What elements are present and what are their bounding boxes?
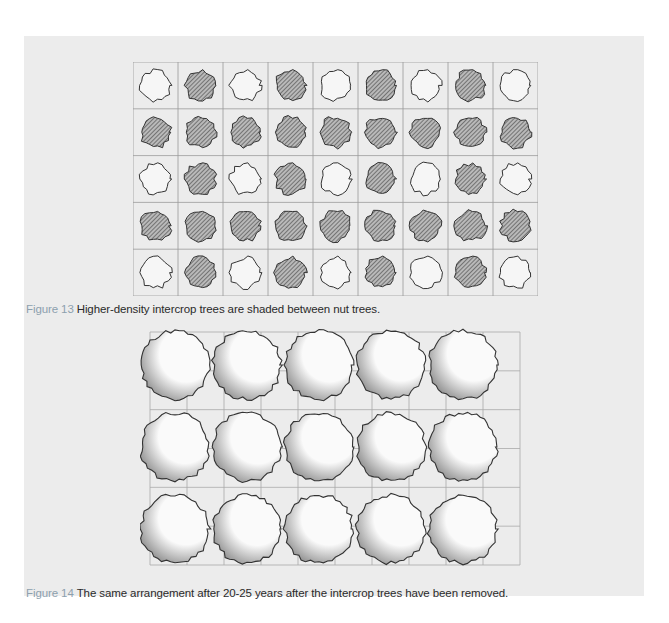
nut-tree-icon (410, 256, 443, 289)
intercrop-tree-icon (454, 210, 488, 241)
intercrop-tree-icon (365, 256, 396, 287)
nut-tree-icon (321, 256, 352, 289)
mature-nut-tree-icon (140, 494, 211, 563)
mature-nut-tree-icon (283, 496, 353, 563)
nut-tree-icon (411, 162, 441, 196)
nut-tree-icon (500, 163, 532, 195)
intercrop-tree-icon (365, 210, 396, 241)
figure-14-caption: Figure 14The same arrangement after 20-2… (26, 587, 508, 599)
intercrop-tree-icon (141, 117, 171, 148)
figure-14-label: Figure 14 (26, 587, 74, 599)
mature-nut-tree-icon (140, 413, 209, 482)
nut-tree-icon (500, 70, 531, 102)
intercrop-tree-icon (500, 209, 532, 242)
intercrop-tree-icon (409, 118, 441, 148)
mature-nut-tree-icon (212, 412, 282, 483)
nut-tree-icon (139, 163, 172, 195)
figure-14-caption-text: The same arrangement after 20-25 years a… (77, 587, 509, 599)
figure-13-label: Figure 13 (26, 303, 74, 315)
nut-tree-icon (499, 256, 530, 288)
figure-13-illustration (133, 62, 538, 296)
mature-nut-tree-icon (284, 330, 354, 401)
mature-nut-tree-icon (355, 493, 426, 564)
nut-tree-icon (139, 69, 172, 102)
intercrop-tree-icon (366, 163, 397, 194)
mature-nut-tree-icon (427, 495, 498, 565)
intercrop-tree-icon (320, 211, 350, 243)
intercrop-tree-icon (456, 70, 486, 102)
mature-nut-tree-icon (213, 494, 281, 564)
intercrop-tree-icon (320, 117, 352, 149)
mature-nut-tree-icon (284, 414, 354, 481)
intercrop-tree-icon (276, 70, 307, 101)
intercrop-tree-icon (140, 211, 172, 240)
nut-tree-icon (321, 163, 352, 196)
nut-tree-icon (411, 70, 442, 102)
figure-13-caption: Figure 13Higher-density intercrop trees … (26, 303, 380, 315)
intercrop-tree-icon (230, 212, 261, 242)
figure-14-illustration (140, 320, 530, 580)
intercrop-tree-icon (186, 116, 217, 147)
mature-nut-tree-icon (357, 412, 427, 481)
nut-tree-icon (229, 256, 262, 290)
intercrop-tree-icon (366, 70, 396, 101)
nut-tree-icon (229, 163, 262, 195)
mature-nut-tree-icon (141, 330, 210, 401)
intercrop-tree-icon (455, 163, 486, 195)
intercrop-tree-icon (365, 118, 398, 148)
intercrop-tree-icon (275, 116, 306, 148)
nut-tree-icon (321, 70, 351, 102)
intercrop-tree-icon (185, 211, 216, 242)
intercrop-tree-icon (184, 70, 216, 102)
mature-nut-tree-icon (356, 330, 426, 399)
intercrop-tree-icon (185, 256, 217, 288)
intercrop-tree-icon (500, 118, 532, 150)
intercrop-tree-icon (409, 210, 442, 242)
nut-tree-icon (140, 256, 172, 288)
intercrop-tree-icon (184, 163, 216, 195)
intercrop-tree-icon (454, 256, 486, 287)
mature-nut-tree-icon (428, 412, 498, 481)
nut-tree-icon (229, 70, 262, 101)
intercrop-tree-icon (274, 256, 308, 288)
intercrop-tree-icon (231, 116, 261, 148)
intercrop-tree-icon (454, 117, 487, 146)
figure-13-caption-text: Higher-density intercrop trees are shade… (77, 303, 380, 315)
mature-nut-tree-icon (429, 329, 498, 399)
mature-nut-tree-icon (212, 331, 283, 401)
intercrop-tree-icon (275, 211, 307, 240)
intercrop-tree-icon (274, 163, 306, 196)
